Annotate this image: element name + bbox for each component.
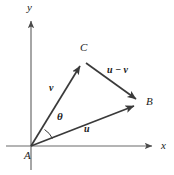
vector-label-u: u (84, 124, 90, 134)
point-label-b: B (146, 96, 153, 107)
y-axis-label: y (27, 2, 32, 13)
vector-label-v: v (49, 83, 53, 93)
vector-diagram-figure: y x A B C v u u − v θ (0, 0, 174, 175)
vector-label-u-minus-v: u − v (107, 65, 128, 75)
angle-label-theta: θ (57, 111, 63, 122)
vector-v-arrow (31, 66, 80, 146)
angle-theta-arc (45, 130, 53, 139)
x-axis-label: x (161, 140, 166, 151)
vector-u-arrow (31, 106, 134, 146)
point-label-a: A (24, 150, 31, 161)
point-label-c: C (80, 42, 87, 53)
